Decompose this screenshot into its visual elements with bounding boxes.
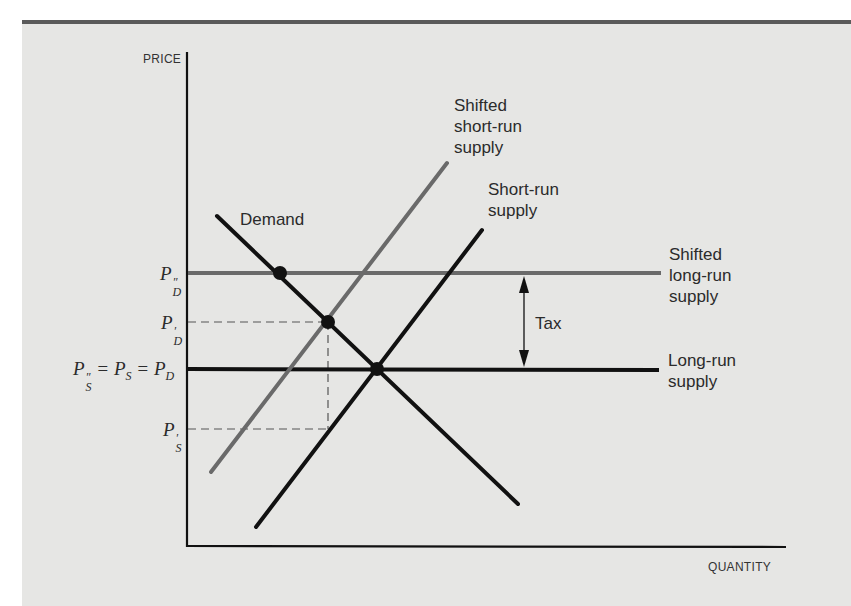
equilibrium-point-short-run [321, 315, 335, 329]
price-subscript: D [173, 287, 182, 297]
equals-sign: = [136, 358, 149, 379]
price-subscript: S [86, 382, 92, 392]
long-run-supply-label-line2: supply [668, 371, 736, 392]
tax-arrow-head-down [519, 350, 529, 367]
short-run-supply-label-line2: supply [488, 200, 559, 221]
shifted-short-run-supply-label-line3: supply [454, 137, 522, 158]
price-symbol-pd: P [154, 358, 166, 379]
shifted-long-run-supply-label-line3: supply [669, 286, 731, 307]
price-subscript: S [176, 443, 182, 453]
demand-line [217, 216, 518, 504]
price-label-ps-prime: P′S [163, 419, 182, 453]
equals-sign: = [96, 358, 109, 379]
price-label-pd-double-prime: P″D [160, 263, 181, 297]
price-subscript: D [165, 369, 174, 383]
tax-arrow-head-up [519, 276, 529, 293]
shifted-short-run-supply-label-line1: Shifted [454, 95, 522, 116]
shifted-short-run-supply-label: Shifted short-run supply [454, 95, 522, 158]
x-axis [186, 546, 786, 547]
x-axis-label: QUANTITY [708, 557, 771, 577]
short-run-supply-label: Short-run supply [488, 179, 559, 221]
demand-label: Demand [240, 210, 304, 230]
y-axis-label: PRICE [143, 49, 181, 69]
price-symbol: P [160, 263, 172, 284]
long-run-supply-label-line1: Long-run [668, 350, 736, 371]
long-run-supply-label: Long-run supply [668, 350, 736, 392]
long-run-supply-line [188, 369, 659, 370]
price-label-equilibrium: P″S = PS = PD [73, 358, 174, 392]
tax-label: Tax [535, 314, 561, 334]
short-run-supply-label-line1: Short-run [488, 179, 559, 200]
price-symbol-ps: P [114, 358, 126, 379]
shifted-short-run-supply-label-line2: short-run [454, 116, 522, 137]
shifted-long-run-supply-label-line2: long-run [669, 265, 731, 286]
price-subscript: D [174, 336, 183, 346]
equilibrium-point-initial [370, 362, 384, 376]
shifted-long-run-supply-label: Shifted long-run supply [669, 244, 731, 307]
equilibrium-point-shifted [273, 266, 287, 280]
price-subscript: S [126, 369, 132, 383]
shifted-long-run-supply-label-line1: Shifted [669, 244, 731, 265]
price-symbol: P [163, 419, 175, 440]
price-label-pd-prime: P′D [161, 312, 182, 346]
price-symbol: P [161, 312, 173, 333]
price-symbol-ps-double: P [73, 358, 85, 379]
